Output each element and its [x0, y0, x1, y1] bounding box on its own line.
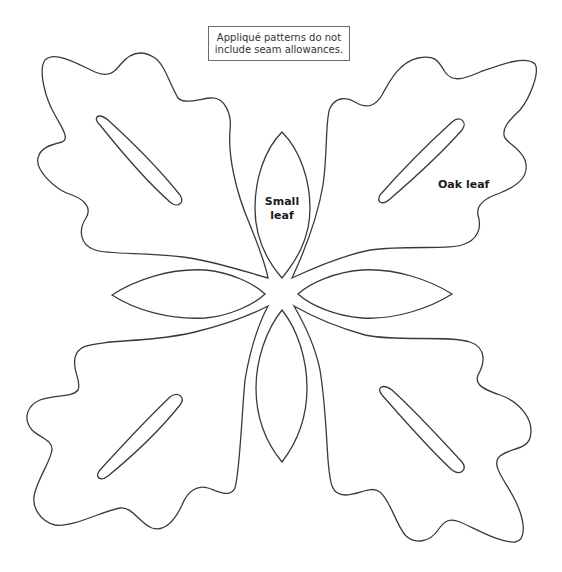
oak-leaf-bottom-right	[294, 306, 531, 542]
small-leaf-right	[298, 270, 452, 318]
notice-line-2: include seam allowances.	[209, 44, 349, 56]
oak-leaf-bottom-left	[27, 306, 268, 529]
seam-allowance-notice: Appliqué patterns do not include seam al…	[208, 26, 350, 61]
oak-leaf-label: Oak leaf	[438, 178, 490, 191]
oak-leaf-top-left	[38, 53, 268, 278]
applique-pattern: Oak leaf Small leaf	[0, 0, 562, 572]
small-leaf-left	[112, 270, 265, 318]
small-leaf-label-line2: leaf	[270, 209, 294, 222]
oak-leaf-top-right: Oak leaf	[292, 57, 536, 278]
small-leaf-bottom	[256, 310, 307, 462]
notice-line-1: Appliqué patterns do not	[209, 32, 349, 44]
small-leaf-label-line1: Small	[265, 195, 299, 208]
